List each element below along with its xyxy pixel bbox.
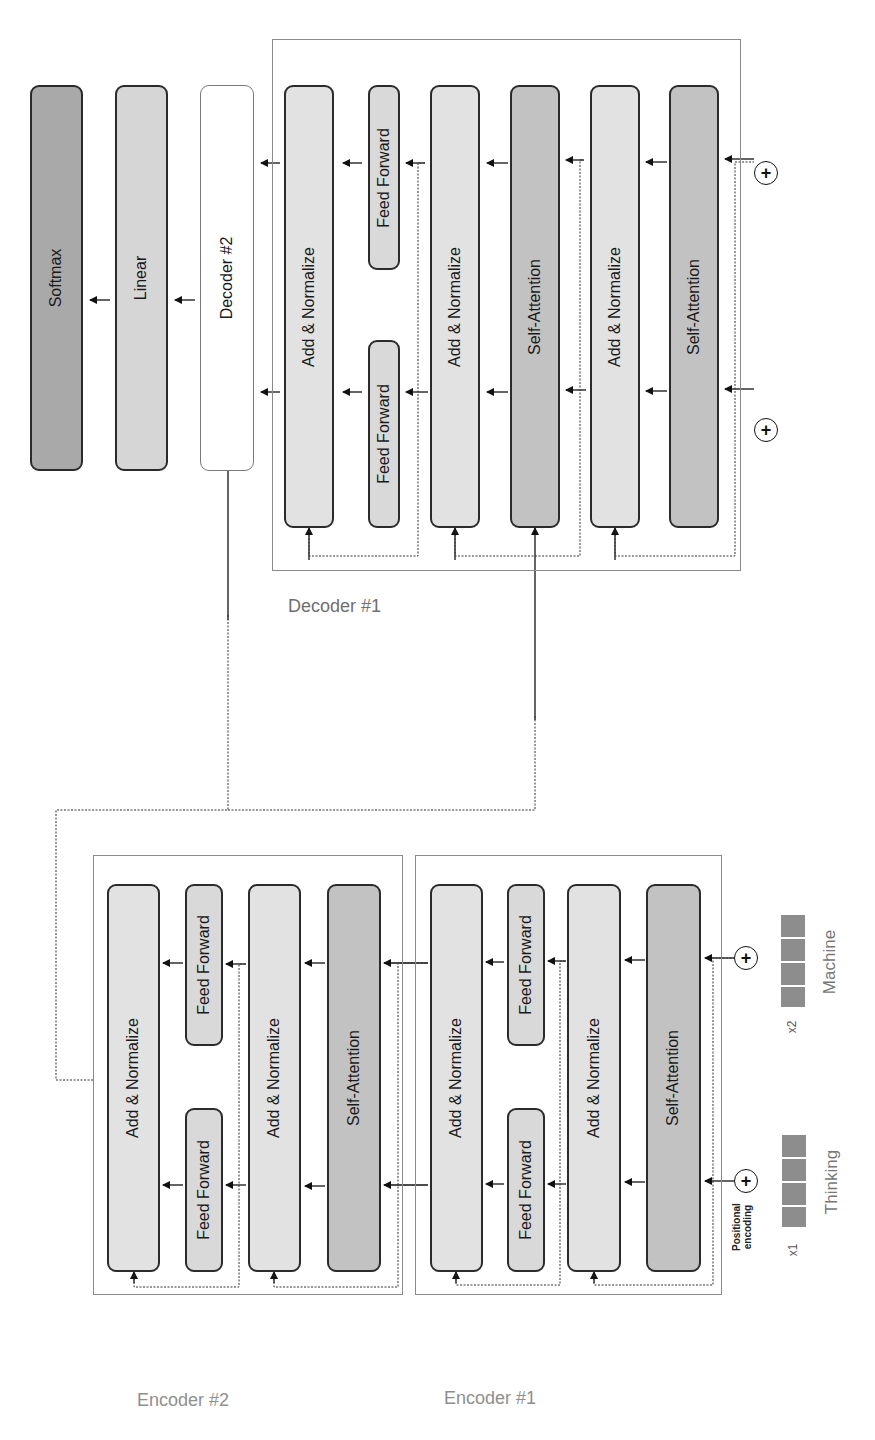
block-label: Self-Attention xyxy=(685,258,703,354)
block-label: Feed Forward xyxy=(375,384,393,484)
decoder-1-add-normalize-mid: Add & Normalize xyxy=(430,85,480,528)
block-label: Add & Normalize xyxy=(606,246,624,366)
linear-label: Linear xyxy=(132,256,150,300)
decoder-1-label: Decoder #1 xyxy=(288,596,381,617)
plus-glyph: + xyxy=(741,1172,752,1190)
decoder-1-feed-forward-bottom: Feed Forward xyxy=(368,340,400,528)
decoder-plus-icon-bottom: + xyxy=(754,418,778,442)
decoder-1-add-normalize-in: Add & Normalize xyxy=(590,85,640,528)
block-label: Feed Forward xyxy=(195,915,213,1015)
block-label: Add & Normalize xyxy=(585,1018,603,1138)
softmax-block: Softmax xyxy=(30,85,83,471)
plus-glyph: + xyxy=(761,164,772,182)
block-label: Add & Normalize xyxy=(448,1018,466,1138)
decoder-2-label: Decoder #2 xyxy=(218,237,236,320)
encoder-1-label: Encoder #1 xyxy=(444,1388,536,1409)
block-label: Feed Forward xyxy=(517,1140,535,1240)
decoder-1-add-normalize-out: Add & Normalize xyxy=(284,85,334,528)
token-index-x1: x1 xyxy=(786,1230,800,1270)
block-label: Feed Forward xyxy=(517,915,535,1015)
block-label: Add & Normalize xyxy=(125,1018,143,1138)
encoder-2-label: Encoder #2 xyxy=(137,1390,229,1411)
token-word-thinking: Thinking xyxy=(822,1147,842,1217)
decoder-2-block: Decoder #2 xyxy=(200,85,254,471)
encoder-plus-icon-machine: + xyxy=(734,946,758,970)
positional-encoding-line2: encoding xyxy=(742,1197,753,1257)
encoder-1-self-attention: Self-Attention xyxy=(646,884,701,1272)
positional-encoding-label: Positional encoding xyxy=(731,1197,753,1257)
block-label: Self-Attention xyxy=(665,1030,683,1126)
plus-glyph: + xyxy=(741,949,752,967)
encoder-1-add-normalize-out: Add & Normalize xyxy=(430,884,483,1272)
block-label: Self-Attention xyxy=(345,1030,363,1126)
decoder-plus-icon-top: + xyxy=(754,161,778,185)
encoder-2-feed-forward-top: Feed Forward xyxy=(185,884,223,1046)
block-label: Feed Forward xyxy=(195,1140,213,1240)
block-label: Feed Forward xyxy=(375,128,393,228)
encoder-2-add-normalize-in: Add & Normalize xyxy=(248,884,301,1272)
block-label: Self-Attention xyxy=(526,258,544,354)
decoder-1-feed-forward-top: Feed Forward xyxy=(368,85,400,270)
encoder-1-feed-forward-top: Feed Forward xyxy=(507,884,545,1046)
linear-block: Linear xyxy=(115,85,168,471)
positional-encoding-line1: Positional xyxy=(731,1197,742,1257)
plus-glyph: + xyxy=(761,421,772,439)
encoder-plus-icon-thinking: + xyxy=(734,1169,758,1193)
token-word-machine: Machine xyxy=(820,929,840,995)
block-label: Add & Normalize xyxy=(266,1018,284,1138)
block-label: Add & Normalize xyxy=(446,246,464,366)
softmax-label: Softmax xyxy=(48,249,66,308)
token-index-x2: x2 xyxy=(785,1007,799,1047)
decoder-1-self-attention: Self-Attention xyxy=(669,85,719,528)
encoder-1-add-normalize-in: Add & Normalize xyxy=(567,884,621,1272)
encoder-2-self-attention: Self-Attention xyxy=(327,884,381,1272)
block-label: Add & Normalize xyxy=(300,246,318,366)
encoder-1-feed-forward-bottom: Feed Forward xyxy=(507,1108,545,1272)
encoder-2-feed-forward-bottom: Feed Forward xyxy=(185,1108,223,1272)
decoder-1-encoder-decoder-attention: Self-Attention xyxy=(510,85,560,528)
encoder-2-add-normalize-out: Add & Normalize xyxy=(107,884,160,1272)
